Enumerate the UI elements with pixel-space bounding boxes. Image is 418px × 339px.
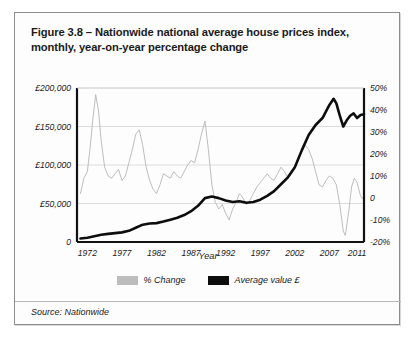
right-axis-tick-labels: -20%-10%010%20%30%40%50% [369, 83, 390, 247]
svg-text:2007: 2007 [319, 248, 340, 258]
svg-text:1997: 1997 [251, 248, 271, 258]
svg-text:£150,000: £150,000 [34, 122, 71, 132]
gridlines [77, 88, 364, 242]
svg-text:20%: 20% [369, 149, 388, 159]
svg-text:-10%: -10% [370, 215, 390, 225]
svg-text:£50,000: £50,000 [39, 199, 71, 209]
figure-card: Figure 3.8 – Nationwide national average… [14, 12, 400, 325]
source-divider [15, 301, 401, 302]
svg-text:£100,000: £100,000 [34, 160, 71, 170]
legend-swatch-average-value [208, 276, 229, 285]
legend-item-average-value: Average value £ [208, 275, 300, 285]
legend-item-pct-change: % Change [117, 275, 186, 285]
svg-text:2011: 2011 [347, 248, 367, 258]
left-axis-tick-labels: 0£50,000£100,000£150,000£200,000 [34, 83, 71, 247]
svg-text:1992: 1992 [216, 248, 235, 258]
svg-text:40%: 40% [370, 105, 388, 115]
x-axis-title: Year [199, 251, 219, 261]
chart-legend: % Change Average value £ [15, 275, 401, 285]
house-price-chart: 0£50,000£100,000£150,000£200,000 -20%-10… [15, 63, 401, 263]
legend-swatch-pct-change [117, 276, 138, 285]
svg-text:-20%: -20% [370, 237, 390, 247]
svg-text:£200,000: £200,000 [34, 83, 71, 93]
x-axis-tick-labels: 197219771982198719921997200220072011 [78, 248, 367, 258]
chart-plot-area: 0£50,000£100,000£150,000£200,000 -20%-10… [15, 63, 401, 263]
svg-text:30%: 30% [370, 127, 388, 137]
svg-text:2002: 2002 [284, 248, 304, 258]
figure-title: Figure 3.8 – Nationwide national average… [31, 25, 381, 55]
source-note: Source: Nationwide [31, 307, 109, 317]
legend-label-pct-change: % Change [144, 275, 186, 285]
svg-text:50%: 50% [370, 83, 388, 93]
svg-text:0: 0 [370, 193, 375, 203]
svg-text:1977: 1977 [112, 248, 132, 258]
svg-text:10%: 10% [370, 171, 388, 181]
svg-text:1972: 1972 [78, 248, 97, 258]
svg-text:0: 0 [66, 237, 71, 247]
svg-text:1982: 1982 [147, 248, 166, 258]
series-lines [80, 95, 364, 239]
legend-label-average-value: Average value £ [235, 275, 300, 285]
